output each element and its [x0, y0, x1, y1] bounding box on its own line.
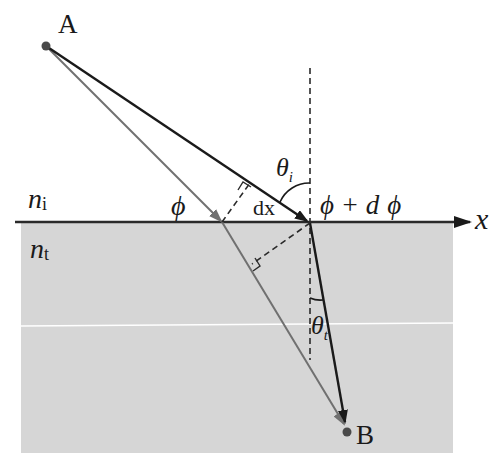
refraction-diagram: A B ni nt ϕ ϕ + dϕ dx θi θt x — [0, 0, 501, 465]
dx-text: dx — [253, 195, 275, 220]
transmitted-angle-symbol: θ — [311, 311, 324, 340]
wavefront-incident-dashed — [222, 183, 250, 222]
incident-medium-n: n — [28, 183, 42, 214]
incident-angle-label: θi — [276, 153, 293, 185]
phase-right-symbol: ϕ — [387, 190, 401, 220]
point-A-label: A — [58, 9, 78, 39]
phase-right-label: ϕ + dϕ — [320, 190, 401, 220]
incident-angle-arc — [280, 183, 310, 202]
secondary-ray-incident — [46, 46, 221, 221]
incident-medium-subscript: i — [42, 194, 47, 214]
x-axis-label: x — [474, 202, 489, 235]
phase-left-label: ϕ — [171, 190, 186, 221]
transmitted-medium-subscript: t — [44, 244, 49, 264]
point-B-label: B — [356, 420, 374, 450]
transmitted-medium-region — [21, 223, 453, 453]
incident-medium-label: ni — [28, 183, 47, 214]
incident-angle-subscript: i — [289, 169, 293, 185]
dx-label: dx — [253, 195, 275, 220]
point-B-dot — [343, 428, 352, 437]
phase-right-prefix: ϕ + d — [320, 190, 380, 220]
incident-angle-symbol: θ — [276, 153, 289, 182]
transmitted-medium-n: n — [30, 233, 44, 264]
point-A-dot — [42, 42, 51, 51]
